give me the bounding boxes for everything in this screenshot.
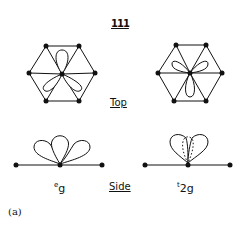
t2g-label-sub: 2g [180, 182, 194, 195]
side-view-label: Side [109, 181, 131, 192]
eg-label-sub: g [58, 182, 65, 195]
orbital-diagram [0, 0, 244, 227]
t2g-side-view [145, 135, 230, 165]
plane-title: 111 [111, 18, 129, 29]
top-view-label: Top [110, 97, 127, 108]
eg-side-view [16, 136, 102, 165]
eg-top-lobes [43, 50, 82, 91]
t2g-label: t2g [177, 181, 194, 195]
t2g-top-lobes [172, 61, 208, 97]
eg-label: eg [54, 181, 65, 195]
figure-caption: (a) [8, 206, 22, 217]
